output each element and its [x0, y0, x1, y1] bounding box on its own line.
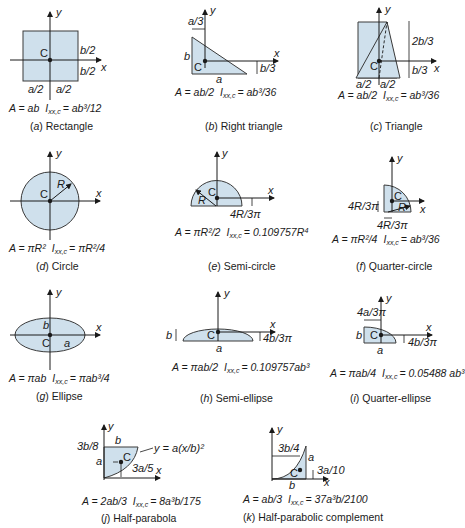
label: C	[40, 47, 48, 59]
svg-text:a: a	[377, 344, 383, 356]
caption: (d) Circle	[36, 260, 79, 272]
panel-triangle: y x C 2b/3 b/3 a/2 a/2 A = ab/2Ixx,c= ab…	[337, 3, 440, 132]
svg-text:x: x	[419, 203, 426, 215]
svg-text:A = πR²/4Ixx,c= ab³/36: A = πR²/4Ixx,c= ab³/36	[331, 233, 440, 246]
svg-text:4R/3π: 4R/3π	[348, 200, 379, 212]
svg-text:y: y	[385, 292, 393, 304]
svg-text:a: a	[308, 451, 314, 463]
svg-text:3a/10: 3a/10	[317, 464, 345, 476]
svg-text:a: a	[96, 455, 102, 467]
svg-text:C: C	[208, 186, 216, 198]
svg-text:C: C	[370, 329, 378, 341]
area-formula: A = ab	[8, 102, 39, 114]
svg-text:x: x	[95, 187, 102, 199]
svg-text:b: b	[166, 329, 172, 341]
svg-text:A = πR²Ixx,c= πR²/4: A = πR²Ixx,c= πR²/4	[8, 242, 105, 255]
panel-right-triangle: y x C a/3 b b/3 a A = ab/2Ixx,c= ab³/36 …	[174, 4, 283, 132]
svg-text:x: x	[323, 476, 330, 488]
label: y	[55, 6, 63, 18]
svg-text:C: C	[123, 451, 131, 463]
inertia-formula: = ab³/12	[63, 102, 102, 114]
svg-text:b: b	[356, 329, 362, 341]
svg-text:a/3: a/3	[188, 15, 204, 27]
svg-text:y: y	[396, 152, 404, 164]
svg-text:b: b	[115, 434, 121, 446]
label: a/2	[56, 83, 71, 95]
centroid-dot	[48, 199, 52, 203]
caption: (a) Rectangle	[30, 120, 93, 132]
svg-text:A = πabIxx,c= πab³/4: A = πabIxx,c= πab³/4	[8, 372, 110, 385]
svg-text:y = a(x/b)²: y = a(x/b)²	[153, 442, 204, 454]
svg-text:C: C	[40, 188, 48, 200]
svg-text:4R/3π: 4R/3π	[230, 208, 261, 220]
svg-text:3b/8: 3b/8	[77, 440, 99, 452]
svg-text:x: x	[269, 318, 276, 330]
panel-rectangle: y x C b/2 b/2 a/2 a/2 A = abIxx,c= ab³/1…	[8, 6, 107, 132]
svg-text:y: y	[107, 420, 115, 432]
svg-text:4b/3π: 4b/3π	[408, 336, 437, 348]
caption: (e) Semi-circle	[208, 260, 276, 272]
svg-text:x: x	[425, 321, 432, 333]
label: b/2	[80, 44, 95, 56]
svg-text:y: y	[221, 147, 229, 159]
centroid-dot	[48, 58, 52, 62]
centroid-dot	[379, 333, 383, 337]
panel-semi-circle: y x C R 4R/3π A = πR²/2Ixx,c= 0.109757R⁴…	[174, 147, 309, 272]
svg-text:b/3: b/3	[412, 64, 428, 76]
caption: (k) Half-parabolic complement	[243, 511, 383, 523]
caption: (h) Semi-ellipse	[200, 392, 273, 404]
svg-text:A = ab/2Ixx,c= ab³/36: A = ab/2Ixx,c= ab³/36	[337, 89, 439, 102]
svg-text:x: x	[273, 47, 280, 59]
svg-text:R: R	[398, 201, 406, 213]
centroid-dot	[298, 468, 302, 472]
svg-text:A = ab/3Ixx,c= 37a³b/2100: A = ab/3Ixx,c= 37a³b/2100	[242, 493, 368, 506]
panel-quarter-ellipse: y x C 4a/3π b a 4b/3π A = πab/4Ixx,c= 0.…	[329, 292, 465, 404]
svg-text:R: R	[198, 194, 206, 206]
panel-semi-ellipse: y x C b a 4b/3π A = πab/2Ixx,c= 0.109757…	[166, 287, 310, 404]
caption: (b) Right triangle	[205, 120, 283, 132]
svg-text:y: y	[55, 147, 63, 159]
svg-text:y: y	[209, 4, 217, 16]
svg-text:A = 2ab/3Ixx,c= 8a³b/175: A = 2ab/3Ixx,c= 8a³b/175	[81, 495, 201, 508]
svg-text:b: b	[43, 319, 49, 331]
svg-text:A = πab/4Ixx,c= 0.05488 ab³: A = πab/4Ixx,c= 0.05488 ab³	[329, 367, 465, 380]
svg-text:A = πab/2Ixx,c= 0.109757ab³: A = πab/2Ixx,c= 0.109757ab³	[171, 361, 310, 374]
svg-text:C: C	[42, 337, 50, 349]
panel-circle: y x C R A = πR²Ixx,c= πR²/4 (d) Circle	[8, 147, 105, 272]
svg-text:b/3: b/3	[260, 62, 276, 74]
svg-text:4b/3π: 4b/3π	[263, 332, 292, 344]
svg-text:y: y	[55, 286, 63, 298]
svg-text:R: R	[57, 178, 65, 190]
svg-text:4a/3π: 4a/3π	[357, 306, 386, 318]
svg-text:b: b	[289, 479, 295, 491]
svg-text:A = ab/2Ixx,c= ab³/36: A = ab/2Ixx,c= ab³/36	[174, 86, 276, 99]
label: x	[100, 61, 107, 73]
svg-text:y: y	[276, 423, 284, 435]
centroid-dot	[216, 330, 220, 334]
svg-text:y: y	[384, 3, 392, 15]
svg-text:4R/3π: 4R/3π	[377, 219, 408, 231]
svg-text:C: C	[207, 329, 215, 341]
panel-half-parabolic-complement: y x C 3b/4 a 3a/10 b A = ab/3Ixx,c= 37a³…	[242, 423, 383, 523]
svg-text:C: C	[290, 467, 298, 479]
svg-text:x: x	[95, 321, 102, 333]
label: b/2	[80, 65, 95, 77]
caption: (j) Half-parabola	[101, 512, 176, 524]
svg-text:b: b	[184, 50, 190, 62]
svg-text:3b/4: 3b/4	[278, 442, 299, 454]
caption: (c) Triangle	[370, 120, 423, 132]
svg-text:x: x	[433, 62, 440, 74]
caption: (i) Quarter-ellipse	[350, 392, 431, 404]
caption: (g) Ellipse	[36, 390, 83, 402]
svg-text:3a/5: 3a/5	[132, 462, 154, 474]
caption: (f) Quarter-circle	[356, 260, 433, 272]
svg-text:2b/3: 2b/3	[411, 35, 434, 47]
svg-text:C: C	[370, 60, 378, 72]
label: a/2	[28, 83, 43, 95]
svg-text:C: C	[194, 61, 202, 73]
centroid-inertia-table: y x C b/2 b/2 a/2 a/2 A = abIxx,c= ab³/1…	[0, 0, 465, 528]
svg-text:A = abIxx,c= ab³/12: A = abIxx,c= ab³/12	[8, 102, 102, 115]
svg-text:A = πR²/2Ixx,c= 0.109757R⁴: A = πR²/2Ixx,c= 0.109757R⁴	[174, 226, 309, 239]
svg-text:a: a	[64, 337, 70, 349]
svg-text:a: a	[216, 73, 222, 85]
